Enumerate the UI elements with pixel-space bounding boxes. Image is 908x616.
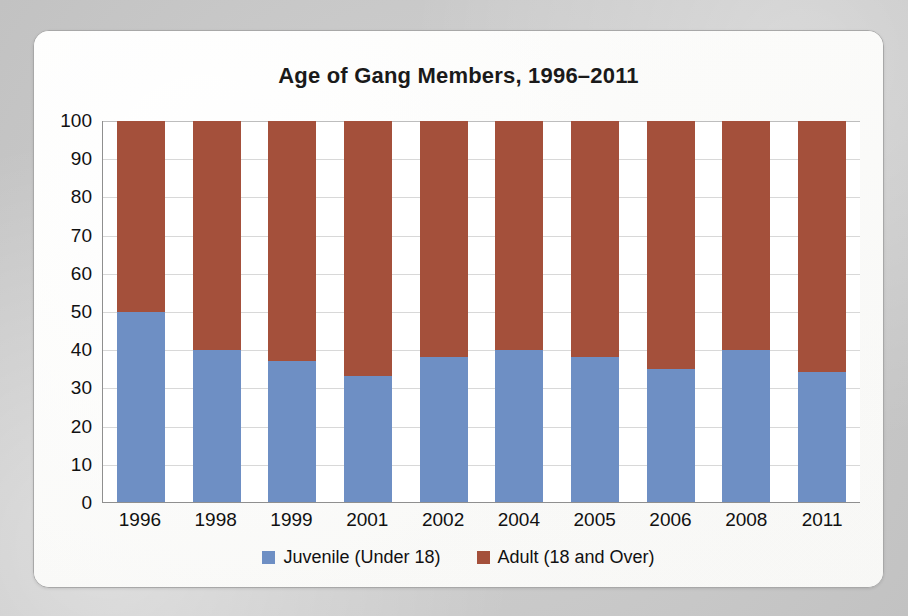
bar-segment-adult[interactable] [344, 121, 392, 376]
bar-segment-juvenile[interactable] [268, 361, 316, 502]
y-axis-tick-label: 40 [44, 339, 92, 361]
bar-segment-juvenile[interactable] [647, 369, 695, 502]
bar-stack [495, 121, 543, 502]
bar-stack [798, 121, 846, 502]
legend-color-swatch [477, 551, 490, 564]
bar-segment-adult[interactable] [193, 121, 241, 350]
bar-segment-adult[interactable] [420, 121, 468, 357]
legend-label: Adult (18 and Over) [498, 547, 655, 568]
y-axis-tick-label: 70 [44, 225, 92, 247]
bar-segment-juvenile[interactable] [722, 350, 770, 502]
y-axis-tick-label: 20 [44, 416, 92, 438]
bar-segment-juvenile[interactable] [798, 372, 846, 502]
x-axis-tick-label: 2002 [419, 509, 467, 531]
bar-segment-juvenile[interactable] [420, 357, 468, 502]
bars-layer [103, 121, 860, 502]
y-axis-tick-label: 10 [44, 454, 92, 476]
bar-segment-adult[interactable] [495, 121, 543, 350]
bar-group[interactable] [268, 121, 316, 502]
x-axis-tick-label: 1999 [267, 509, 315, 531]
bar-stack [647, 121, 695, 502]
x-axis-tick-label: 2004 [495, 509, 543, 531]
y-axis-tick-label: 0 [44, 492, 92, 514]
bar-segment-adult[interactable] [117, 121, 165, 312]
legend-color-swatch [262, 551, 275, 564]
bar-stack [571, 121, 619, 502]
bar-segment-juvenile[interactable] [495, 350, 543, 502]
legend-label: Juvenile (Under 18) [283, 547, 440, 568]
x-axis-tick-label: 2008 [722, 509, 770, 531]
legend-item[interactable]: Juvenile (Under 18) [262, 547, 440, 568]
plot-wrapper: Percent 1009080706050403020100 [102, 121, 862, 503]
y-axis-tick-label: 60 [44, 263, 92, 285]
bar-stack [420, 121, 468, 502]
y-axis-tick-labels: 1009080706050403020100 [44, 121, 92, 503]
bar-segment-juvenile[interactable] [571, 357, 619, 502]
bar-segment-adult[interactable] [798, 121, 846, 372]
bar-group[interactable] [344, 121, 392, 502]
bar-segment-juvenile[interactable] [117, 312, 165, 503]
bar-segment-adult[interactable] [571, 121, 619, 357]
y-axis-tick-label: 50 [44, 301, 92, 323]
plot-area [102, 121, 860, 503]
bar-stack [193, 121, 241, 502]
x-axis-tick-label: 2006 [646, 509, 694, 531]
x-axis-tick-label: 1996 [116, 509, 164, 531]
bar-group[interactable] [798, 121, 846, 502]
bar-group[interactable] [193, 121, 241, 502]
y-axis-tick-label: 80 [44, 186, 92, 208]
chart-figure-card: Age of Gang Members, 1996–2011 Percent 1… [33, 30, 884, 588]
bar-segment-juvenile[interactable] [193, 350, 241, 502]
bar-group[interactable] [571, 121, 619, 502]
bar-stack [722, 121, 770, 502]
bar-group[interactable] [420, 121, 468, 502]
y-axis-tick-label: 30 [44, 377, 92, 399]
bar-group[interactable] [722, 121, 770, 502]
bar-segment-juvenile[interactable] [344, 376, 392, 502]
x-axis-tick-label: 2001 [343, 509, 391, 531]
bar-group[interactable] [495, 121, 543, 502]
y-axis-tick-label: 100 [44, 110, 92, 132]
bar-stack [344, 121, 392, 502]
bar-group[interactable] [647, 121, 695, 502]
chart-title: Age of Gang Members, 1996–2011 [34, 63, 883, 89]
legend-item[interactable]: Adult (18 and Over) [477, 547, 655, 568]
x-axis-tick-labels: 1996199819992001200220042005200620082011 [102, 509, 860, 531]
x-axis-tick-label: 1998 [192, 509, 240, 531]
bar-stack [268, 121, 316, 502]
bar-stack [117, 121, 165, 502]
bar-group[interactable] [117, 121, 165, 502]
bar-segment-adult[interactable] [647, 121, 695, 369]
bar-segment-adult[interactable] [268, 121, 316, 361]
bar-segment-adult[interactable] [722, 121, 770, 350]
x-axis-tick-label: 2011 [798, 509, 846, 531]
x-axis-tick-label: 2005 [571, 509, 619, 531]
y-axis-tick-label: 90 [44, 148, 92, 170]
chart-legend: Juvenile (Under 18)Adult (18 and Over) [34, 547, 883, 568]
